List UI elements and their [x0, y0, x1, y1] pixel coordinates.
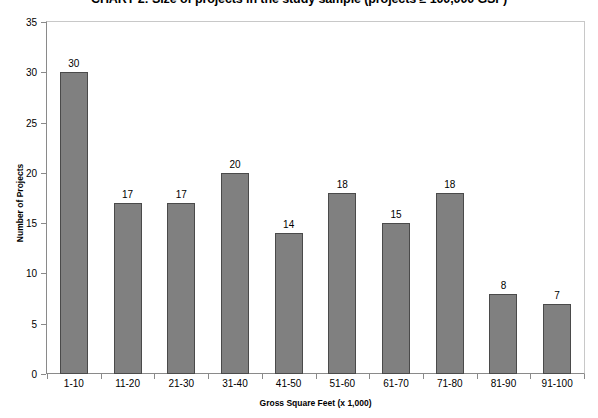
- bar-group: 18: [316, 22, 370, 374]
- bar-group: 30: [47, 22, 101, 374]
- bar-value-label: 30: [68, 58, 79, 69]
- bar: [382, 223, 410, 374]
- x-tick-label: 11-20: [115, 378, 140, 389]
- y-tick-mark: [41, 173, 46, 174]
- x-tick-mark: [316, 374, 317, 379]
- bar-group: 15: [369, 22, 423, 374]
- y-tick-label: 10: [26, 268, 37, 279]
- bar-value-label: 17: [176, 189, 187, 200]
- x-tick-mark: [423, 374, 424, 379]
- bar-value-label: 20: [229, 159, 240, 170]
- x-tick-mark: [101, 374, 102, 379]
- y-tick-mark: [41, 123, 46, 124]
- bar: [328, 193, 356, 374]
- x-tick-label: 61-70: [383, 378, 409, 389]
- y-tick-mark: [41, 22, 46, 23]
- bar: [275, 233, 303, 374]
- y-tick-mark: [41, 223, 46, 224]
- bar-chart: CHART 2: Size of projects in the study s…: [0, 0, 598, 418]
- bar-value-label: 14: [283, 219, 294, 230]
- y-tick-mark: [41, 324, 46, 325]
- y-tick-label: 30: [26, 67, 37, 78]
- bar-value-label: 15: [390, 209, 401, 220]
- bar-value-label: 18: [444, 179, 455, 190]
- bar: [489, 294, 517, 374]
- x-tick-label: 41-50: [276, 378, 302, 389]
- x-tick-label: 71-80: [437, 378, 463, 389]
- y-tick-mark: [41, 72, 46, 73]
- y-tick-mark: [41, 273, 46, 274]
- bar: [114, 203, 142, 374]
- x-tick-label: 1-10: [64, 378, 84, 389]
- bar-group: 18: [423, 22, 477, 374]
- bar-value-label: 7: [554, 290, 560, 301]
- y-tick-label: 20: [26, 167, 37, 178]
- bar: [60, 72, 88, 374]
- x-tick-mark: [208, 374, 209, 379]
- bar: [436, 193, 464, 374]
- y-tick-label: 35: [26, 17, 37, 28]
- x-tick-mark: [584, 374, 585, 379]
- x-tick-label: 81-90: [491, 378, 517, 389]
- x-tick-mark: [477, 374, 478, 379]
- bar-group: 20: [208, 22, 262, 374]
- x-axis-title: Gross Square Feet (x 1,000): [46, 398, 585, 408]
- x-tick-mark: [530, 374, 531, 379]
- bar: [543, 304, 571, 374]
- y-tick-label: 0: [31, 369, 37, 380]
- bars-layer: 301717201418151887: [47, 22, 584, 374]
- y-axis-title: Number of Projects: [15, 133, 25, 273]
- x-tick-mark: [154, 374, 155, 379]
- bar-group: 7: [530, 22, 584, 374]
- x-tick-mark: [262, 374, 263, 379]
- y-tick-mark: [41, 374, 46, 375]
- bar-group: 14: [262, 22, 316, 374]
- x-tick-label: 31-40: [222, 378, 248, 389]
- y-tick-label: 25: [26, 117, 37, 128]
- bar: [221, 173, 249, 374]
- bar-group: 17: [154, 22, 208, 374]
- x-tick-label: 21-30: [168, 378, 194, 389]
- bar-group: 17: [101, 22, 155, 374]
- x-tick-label: 91-100: [542, 378, 573, 389]
- x-tick-mark: [369, 374, 370, 379]
- bar: [167, 203, 195, 374]
- bar-value-label: 18: [337, 179, 348, 190]
- y-tick-label: 15: [26, 218, 37, 229]
- x-tick-label: 51-60: [330, 378, 356, 389]
- y-tick-label: 5: [31, 318, 37, 329]
- bar-value-label: 8: [501, 280, 507, 291]
- x-tick-mark: [47, 374, 48, 379]
- chart-title: CHART 2: Size of projects in the study s…: [0, 0, 598, 6]
- bar-value-label: 17: [122, 189, 133, 200]
- bar-group: 8: [477, 22, 531, 374]
- x-axis: 1-1011-2021-3031-4041-5051-6061-7071-808…: [47, 378, 584, 394]
